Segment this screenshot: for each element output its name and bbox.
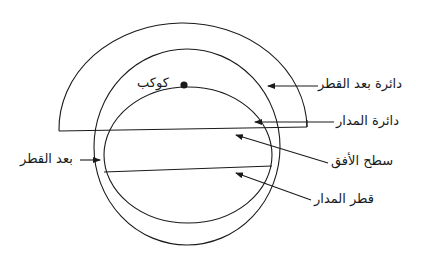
label-latitude-distance-circle: دائرة بعد القطر <box>318 76 402 92</box>
outer-semicircle <box>59 23 307 131</box>
horizon-circle <box>94 49 280 245</box>
label-polar-distance: بعد القطر <box>20 151 73 167</box>
label-orbit-circle: دائرة المدار <box>336 113 399 129</box>
arrow-orbit-diameter <box>236 173 311 200</box>
label-horizon-plane: سطح الأفق <box>331 153 393 169</box>
planet-dot-icon <box>180 81 187 88</box>
diameter-line <box>104 166 272 172</box>
label-orbit-diameter: قطر المدار <box>314 191 374 207</box>
label-planet: كوكب <box>137 75 169 91</box>
orbit-ellipse <box>104 87 272 223</box>
diagram-canvas <box>0 0 423 258</box>
arrow-horizon-plane <box>236 135 328 163</box>
